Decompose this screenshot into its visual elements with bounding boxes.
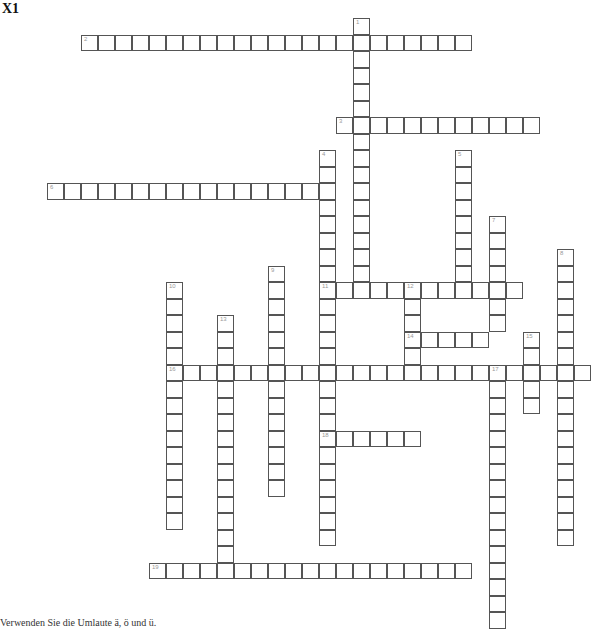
crossword-cell[interactable] — [302, 563, 319, 580]
crossword-cell[interactable] — [217, 546, 234, 563]
crossword-cell[interactable] — [251, 35, 268, 52]
crossword-cell[interactable] — [557, 365, 574, 382]
crossword-cell[interactable] — [353, 84, 370, 101]
crossword-cell[interactable] — [387, 365, 404, 382]
crossword-cell[interactable] — [319, 480, 336, 497]
crossword-cell[interactable] — [319, 35, 336, 52]
crossword-cell[interactable] — [353, 200, 370, 217]
crossword-cell[interactable] — [353, 183, 370, 200]
crossword-cell[interactable]: 14 — [404, 332, 421, 349]
crossword-cell[interactable] — [336, 35, 353, 52]
crossword-cell[interactable] — [370, 563, 387, 580]
crossword-cell[interactable] — [557, 480, 574, 497]
crossword-cell[interactable] — [489, 563, 506, 580]
crossword-cell[interactable] — [353, 216, 370, 233]
crossword-cell[interactable] — [115, 183, 132, 200]
crossword-cell[interactable] — [353, 266, 370, 283]
crossword-cell[interactable] — [302, 183, 319, 200]
crossword-cell[interactable] — [166, 299, 183, 316]
crossword-cell[interactable] — [557, 464, 574, 481]
crossword-cell[interactable] — [455, 365, 472, 382]
crossword-cell[interactable] — [268, 480, 285, 497]
crossword-cell[interactable] — [285, 183, 302, 200]
crossword-cell[interactable] — [166, 381, 183, 398]
crossword-cell[interactable] — [472, 282, 489, 299]
crossword-cell[interactable] — [319, 332, 336, 349]
crossword-cell[interactable] — [285, 35, 302, 52]
crossword-cell[interactable] — [319, 513, 336, 530]
crossword-cell[interactable] — [557, 348, 574, 365]
crossword-cell[interactable] — [489, 464, 506, 481]
crossword-cell[interactable] — [81, 183, 98, 200]
crossword-cell[interactable] — [438, 365, 455, 382]
crossword-cell[interactable] — [64, 183, 81, 200]
crossword-cell[interactable] — [285, 365, 302, 382]
crossword-cell[interactable] — [217, 365, 234, 382]
crossword-cell[interactable] — [353, 35, 370, 52]
crossword-cell[interactable] — [370, 282, 387, 299]
crossword-cell[interactable] — [166, 315, 183, 332]
crossword-cell[interactable] — [166, 480, 183, 497]
crossword-cell[interactable] — [523, 381, 540, 398]
crossword-cell[interactable] — [353, 233, 370, 250]
crossword-cell[interactable] — [404, 348, 421, 365]
crossword-cell[interactable]: 3 — [336, 117, 353, 134]
crossword-cell[interactable] — [319, 233, 336, 250]
crossword-cell[interactable]: 10 — [166, 282, 183, 299]
crossword-cell[interactable] — [217, 183, 234, 200]
crossword-cell[interactable] — [166, 398, 183, 415]
crossword-cell[interactable] — [336, 365, 353, 382]
crossword-cell[interactable] — [455, 35, 472, 52]
crossword-cell[interactable] — [370, 431, 387, 448]
crossword-cell[interactable] — [489, 530, 506, 547]
crossword-cell[interactable] — [319, 167, 336, 184]
crossword-cell[interactable] — [268, 35, 285, 52]
crossword-cell[interactable] — [404, 315, 421, 332]
crossword-cell[interactable] — [421, 332, 438, 349]
crossword-cell[interactable]: 12 — [404, 282, 421, 299]
crossword-cell[interactable] — [217, 35, 234, 52]
crossword-cell[interactable] — [387, 35, 404, 52]
crossword-cell[interactable] — [217, 398, 234, 415]
crossword-cell[interactable] — [336, 282, 353, 299]
crossword-cell[interactable]: 11 — [319, 282, 336, 299]
crossword-cell[interactable] — [455, 167, 472, 184]
crossword-cell[interactable] — [166, 447, 183, 464]
crossword-cell[interactable]: 4 — [319, 150, 336, 167]
crossword-cell[interactable] — [353, 150, 370, 167]
crossword-cell[interactable] — [183, 183, 200, 200]
crossword-cell[interactable] — [268, 299, 285, 316]
crossword-cell[interactable] — [217, 447, 234, 464]
crossword-cell[interactable] — [200, 563, 217, 580]
crossword-cell[interactable]: 8 — [557, 249, 574, 266]
crossword-cell[interactable] — [268, 315, 285, 332]
crossword-cell[interactable] — [404, 431, 421, 448]
crossword-cell[interactable] — [557, 431, 574, 448]
crossword-cell[interactable] — [166, 414, 183, 431]
crossword-cell[interactable] — [319, 315, 336, 332]
crossword-cell[interactable] — [387, 563, 404, 580]
crossword-cell[interactable] — [217, 431, 234, 448]
crossword-cell[interactable] — [489, 612, 506, 629]
crossword-cell[interactable] — [319, 464, 336, 481]
crossword-cell[interactable] — [166, 348, 183, 365]
crossword-cell[interactable]: 5 — [455, 150, 472, 167]
crossword-cell[interactable] — [557, 332, 574, 349]
crossword-cell[interactable] — [217, 348, 234, 365]
crossword-cell[interactable] — [98, 35, 115, 52]
crossword-cell[interactable] — [319, 563, 336, 580]
crossword-cell[interactable] — [268, 365, 285, 382]
crossword-cell[interactable] — [438, 332, 455, 349]
crossword-cell[interactable] — [268, 398, 285, 415]
crossword-cell[interactable] — [506, 117, 523, 134]
crossword-cell[interactable] — [489, 282, 506, 299]
crossword-cell[interactable] — [421, 365, 438, 382]
crossword-cell[interactable] — [557, 447, 574, 464]
crossword-cell[interactable] — [557, 282, 574, 299]
crossword-cell[interactable] — [523, 365, 540, 382]
crossword-cell[interactable] — [353, 365, 370, 382]
crossword-cell[interactable] — [353, 134, 370, 151]
crossword-cell[interactable] — [438, 563, 455, 580]
crossword-cell[interactable] — [404, 35, 421, 52]
crossword-cell[interactable]: 7 — [489, 216, 506, 233]
